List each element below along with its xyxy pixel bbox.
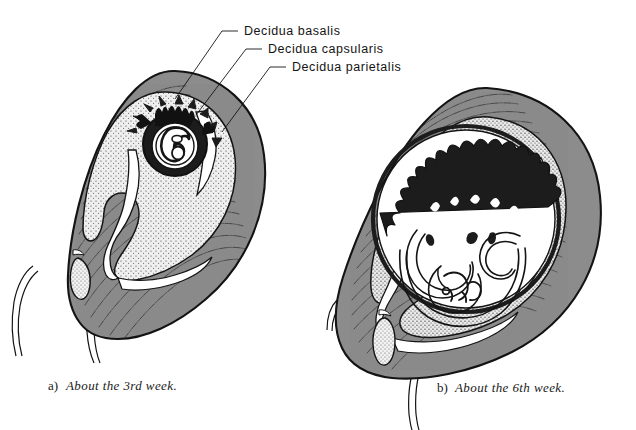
caption-b-text: About the 6th week. (454, 380, 565, 395)
label-decidua-basalis-text: Decidua basalis (244, 24, 341, 38)
mucus-plug-b (373, 318, 395, 365)
caption-b: b) About the 6th week. (437, 380, 565, 395)
label-decidua-parietalis-text: Decidua parietalis (292, 60, 401, 74)
caption-a-index: a) (48, 378, 58, 393)
label-decidua-parietalis: Decidua parietalis (292, 60, 401, 74)
caption-b-index: b) (437, 380, 448, 395)
label-decidua-basalis: Decidua basalis (244, 24, 341, 38)
amniotic-vesicle-a (172, 136, 182, 143)
label-decidua-capsularis-text: Decidua capsularis (268, 42, 384, 56)
caption-a-text: About the 3rd week. (65, 378, 177, 393)
yolk-sac-a (172, 147, 184, 160)
caption-a: a) About the 3rd week. (48, 378, 177, 393)
label-decidua-capsularis: Decidua capsularis (268, 42, 384, 56)
decidua-development-figure: Decidua basalis Decidua capsularis Decid… (0, 0, 636, 430)
